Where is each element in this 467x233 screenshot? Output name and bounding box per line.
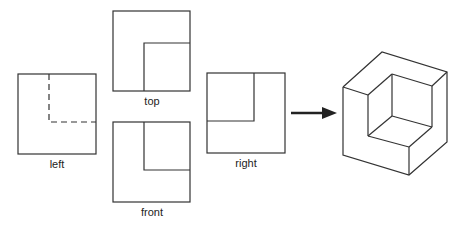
top-view <box>113 11 190 91</box>
top-view-inner-lines <box>144 43 190 91</box>
left-view-hidden-lines <box>49 74 96 122</box>
front-view-label: front <box>141 206 163 218</box>
left-view-label: left <box>50 158 65 170</box>
left-view-outline <box>18 74 96 154</box>
right-view <box>207 73 285 153</box>
front-view <box>113 122 190 202</box>
arrow-right-icon <box>291 107 337 119</box>
orthographic-diagram <box>0 0 467 233</box>
right-view-inner-lines <box>207 73 254 121</box>
front-view-inner-lines <box>144 122 190 170</box>
left-view <box>18 74 96 154</box>
right-view-label: right <box>235 157 256 169</box>
top-view-label: top <box>144 95 159 107</box>
top-view-outline <box>113 11 190 91</box>
isometric-solid <box>343 52 447 175</box>
front-view-outline <box>113 122 190 202</box>
right-view-outline <box>207 73 285 153</box>
